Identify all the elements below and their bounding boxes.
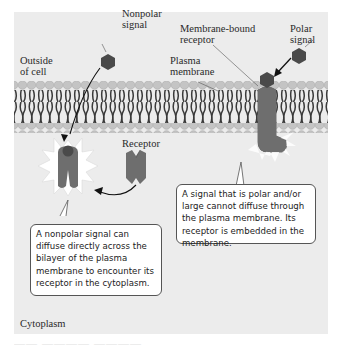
callout-polar-signal: A signal that is polar and/or large cann… <box>176 184 316 244</box>
free-receptor-shape <box>126 150 146 184</box>
label-cytoplasm: Cytoplasm <box>20 318 66 329</box>
label-receptor: Receptor <box>122 138 160 149</box>
label-outside-of-cell: Outside of cell <box>20 55 53 77</box>
lipid-bilayer <box>14 81 328 133</box>
label-membrane-bound-receptor: Membrane-bound receptor <box>180 23 255 45</box>
callout-nonpolar-signal: A nonpolar signal can diffuse directly a… <box>30 224 162 296</box>
label-plasma-membrane: Plasma membrane <box>170 55 214 77</box>
nonpolar-signal-hexagon <box>101 54 115 70</box>
polar-signal-hexagon <box>292 48 306 64</box>
label-polar-signal: Polar signal <box>290 23 315 45</box>
label-nonpolar-signal: Nonpolar signal <box>122 8 162 30</box>
cytoplasmic-receptor-complex <box>38 138 98 196</box>
cropped-caption-fragment: ▬▬ ▬▬▬▬ ▬▬▬▬ ▬▬▬ <box>14 338 164 345</box>
